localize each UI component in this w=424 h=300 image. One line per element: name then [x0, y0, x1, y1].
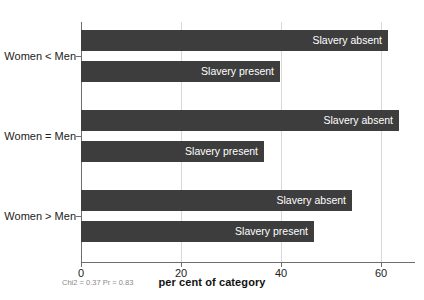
category-label-women-gt-men: Women > Men — [4, 210, 76, 222]
y-tick-women-gt-men — [76, 216, 81, 217]
category-label-women-eq-men: Women = Men — [4, 130, 76, 142]
bar-value-label: Slavery absent — [324, 110, 393, 131]
bar-value-label: Slavery present — [201, 61, 274, 82]
bar-value-label: Slavery present — [185, 141, 258, 162]
bar-women-lt-men-slavery-absent: Slavery absent — [81, 30, 388, 51]
category-label-women-lt-men: Women < Men — [4, 50, 76, 62]
bar-women-gt-men-slavery-present: Slavery present — [81, 221, 314, 242]
x-axis-line — [81, 262, 415, 263]
bar-women-eq-men-slavery-present: Slavery present — [81, 141, 264, 162]
gridline-60 — [381, 22, 382, 262]
y-tick-women-lt-men — [76, 56, 81, 57]
bar-women-gt-men-slavery-absent: Slavery absent — [81, 190, 352, 211]
bar-women-lt-men-slavery-present: Slavery present — [81, 61, 280, 82]
bar-value-label: Slavery absent — [313, 30, 382, 51]
bar-value-label: Slavery absent — [277, 190, 346, 211]
y-tick-women-eq-men — [76, 136, 81, 137]
bar-women-eq-men-slavery-absent: Slavery absent — [81, 110, 399, 131]
bar-value-label: Slavery present — [235, 221, 308, 242]
chi-square-footnote: Chi2 = 0.37 Pr = 0.83 — [62, 278, 133, 287]
bar-chart: Women < Men Women = Men Women > Men Slav… — [0, 0, 424, 300]
